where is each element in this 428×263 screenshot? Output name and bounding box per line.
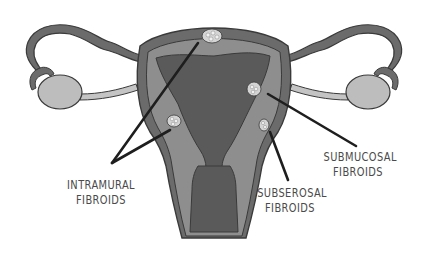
label-subserosal: SUBSEROSAL FIBROIDS — [257, 186, 323, 216]
label-submucosal-line1: SUBMUCOSAL — [324, 150, 393, 165]
uterus-diagram — [0, 0, 428, 263]
pointer-subserosal — [270, 132, 288, 180]
label-subserosal-line2: FIBROIDS — [257, 201, 323, 216]
cervix — [190, 166, 238, 232]
label-intramural: INTRAMURAL FIBROIDS — [64, 178, 138, 208]
label-intramural-line2: FIBROIDS — [64, 193, 138, 208]
fibroid-intramural-top — [202, 29, 222, 43]
ligament-right — [290, 84, 348, 100]
label-submucosal-line2: FIBROIDS — [324, 165, 393, 180]
ligament-left — [80, 84, 138, 100]
fibroid-intramural-left — [167, 115, 181, 127]
label-intramural-line1: INTRAMURAL — [64, 178, 138, 193]
label-submucosal: SUBMUCOSAL FIBROIDS — [324, 150, 393, 180]
fibroid-submucosal — [247, 82, 261, 96]
fibroid-subserosal — [259, 119, 269, 131]
ovary-left — [38, 75, 82, 109]
label-subserosal-line1: SUBSEROSAL — [257, 186, 323, 201]
ovary-right — [346, 75, 390, 109]
